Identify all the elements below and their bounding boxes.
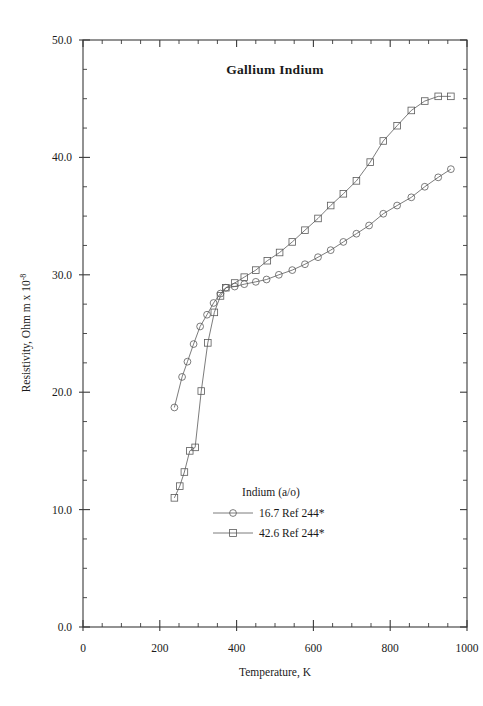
- y-axis-title: Resistivity, Ohm m x 10-8: [19, 274, 33, 393]
- series-line-0: [174, 169, 450, 407]
- chart-title: Gallium Indium: [226, 62, 324, 77]
- legend-label-1: 42.6 Ref 244*: [259, 527, 325, 539]
- y-tick-label: 50.0: [52, 34, 72, 46]
- y-tick-label: 10.0: [52, 504, 72, 516]
- x-tick-label: 600: [305, 642, 323, 654]
- series-0: [171, 166, 454, 411]
- y-tick-label: 0.0: [58, 621, 73, 633]
- chart-legend: Indium (a/o) 16.7 Ref 244* 42.6 Ref 244*: [213, 486, 325, 539]
- axis-ticks: [79, 40, 467, 631]
- y-tick-label: 40.0: [52, 151, 72, 163]
- data-series-layer: [171, 93, 454, 501]
- x-axis-title: Temperature, K: [239, 666, 312, 679]
- chart-figure: 02004006008001000 0.010.020.030.040.050.…: [0, 0, 483, 706]
- y-axis-tick-labels: 0.010.020.030.040.050.0: [52, 34, 72, 633]
- x-tick-label: 0: [80, 642, 86, 654]
- series-1: [171, 93, 454, 501]
- legend-title: Indium (a/o): [242, 486, 300, 499]
- legend-label-0: 16.7 Ref 244*: [259, 507, 325, 519]
- x-tick-label: 400: [228, 642, 246, 654]
- x-tick-label: 800: [382, 642, 400, 654]
- legend-entry-1[interactable]: 42.6 Ref 244*: [213, 527, 325, 539]
- resistivity-vs-temperature-chart: 02004006008001000 0.010.020.030.040.050.…: [0, 0, 483, 706]
- y-tick-label: 20.0: [52, 386, 72, 398]
- x-tick-label: 200: [151, 642, 169, 654]
- x-tick-label: 1000: [456, 642, 479, 654]
- x-axis-tick-labels: 02004006008001000: [80, 642, 479, 654]
- y-tick-label: 30.0: [52, 269, 72, 281]
- legend-entry-0[interactable]: 16.7 Ref 244*: [213, 507, 325, 519]
- series-line-1: [174, 96, 450, 498]
- y-axis-title-group: Resistivity, Ohm m x 10-8: [19, 274, 33, 393]
